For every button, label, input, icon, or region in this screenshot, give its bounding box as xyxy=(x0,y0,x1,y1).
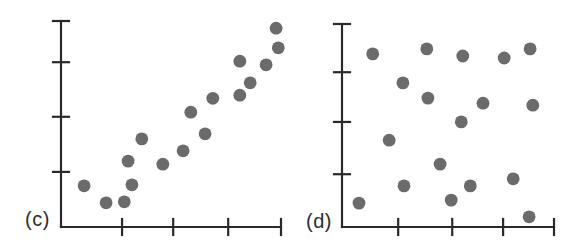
data-point xyxy=(523,210,536,223)
data-point xyxy=(270,22,283,35)
data-point xyxy=(383,134,396,147)
data-point xyxy=(366,48,379,61)
data-point xyxy=(398,180,411,193)
data-point xyxy=(445,194,458,207)
data-point xyxy=(434,158,447,171)
data-point xyxy=(233,55,246,68)
scatter-plot-c xyxy=(53,21,285,235)
scatterplot-figure: (c) (d) xyxy=(0,0,581,248)
data-point xyxy=(125,178,138,191)
data-point xyxy=(422,92,435,105)
plot-c-label: (c) xyxy=(25,209,50,229)
data-point xyxy=(135,133,148,146)
data-point xyxy=(122,155,135,168)
data-point xyxy=(353,197,366,210)
plot-d-label: (d) xyxy=(306,211,332,231)
data-point xyxy=(498,52,511,65)
data-point xyxy=(199,127,212,140)
scatter-plots-canvas xyxy=(0,0,581,248)
data-point xyxy=(233,89,246,102)
scatter-plot-d xyxy=(334,24,554,235)
data-point xyxy=(272,41,285,54)
data-point xyxy=(156,158,169,171)
data-point xyxy=(206,92,219,105)
data-point xyxy=(507,172,520,185)
data-point xyxy=(456,50,469,63)
data-point xyxy=(477,97,490,110)
data-point xyxy=(244,76,257,89)
data-point xyxy=(184,106,197,119)
data-point xyxy=(118,195,131,208)
data-point xyxy=(100,196,113,209)
data-point xyxy=(524,43,537,56)
data-point xyxy=(455,116,468,129)
data-point xyxy=(397,77,410,90)
data-point xyxy=(260,58,273,71)
data-point xyxy=(78,179,91,192)
data-point xyxy=(177,144,190,157)
data-point xyxy=(420,43,433,56)
data-point xyxy=(464,180,477,193)
data-point xyxy=(526,99,539,112)
